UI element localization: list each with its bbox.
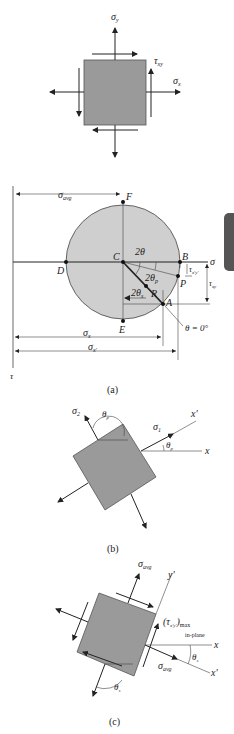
point-A [161, 302, 165, 306]
chapter-edge-tab [224, 213, 234, 271]
label-A: A [165, 297, 173, 308]
max-shear-panel: σavg y' (τx'y')max in-plane x θs σavg x'… [56, 558, 219, 728]
sigma-axis-label: σ [210, 256, 216, 267]
sigma-xp-dim-label: σx' [88, 341, 98, 353]
caption-c: (c) [109, 716, 120, 728]
caption-b: (b) [107, 543, 119, 555]
sigma-x-dim-label: σx [83, 327, 91, 339]
label-F: F [125, 191, 133, 202]
caption-a: (a) [107, 384, 118, 396]
label-R: R [150, 288, 157, 299]
principal-element-square [73, 424, 156, 510]
sigma-x-label: σx [173, 75, 181, 87]
label-C: C [113, 251, 120, 262]
sigma-2-label: σ2 [72, 405, 80, 417]
tau-max-label: (τx'y')max [163, 616, 190, 628]
sigma-2-arrow-opposite [131, 494, 146, 528]
sigma-avg-arrow-bottom [93, 664, 105, 696]
theta-p1-arc [163, 445, 164, 451]
sigma-2-arrow [85, 416, 98, 440]
point-C [121, 260, 125, 264]
theta-s1-arc [188, 645, 191, 664]
theta-zero-leader [165, 306, 183, 326]
x-label: x [204, 445, 210, 456]
stress-element-panel: σy τxy σx [50, 11, 181, 157]
tau-xy-label: τxy [154, 55, 163, 67]
sigma-y-label: σy [111, 11, 119, 23]
sigma-avg-label: σavg [58, 189, 72, 201]
sigma-avg-top-label: σavg [138, 558, 152, 570]
tau-xy-label: τxy [209, 279, 217, 289]
theta-p2-label: θp [102, 409, 109, 420]
principal-stress-panel: σ2 θp σ1 θp x' x (b) [58, 405, 210, 555]
tau-axis-label: τ [10, 371, 14, 381]
label-P: P [179, 278, 186, 289]
tau-xpyp-label: τx'y' [189, 265, 199, 275]
point-D [64, 260, 68, 264]
mohr-circle-panel: C D B F E A P R σavg σ τ 2θ 2θp 2θs τx'y… [10, 186, 217, 396]
two-theta-label: 2θ [135, 246, 145, 257]
point-E [121, 319, 125, 323]
label-E: E [118, 324, 125, 335]
stress-element-square [84, 60, 146, 125]
x-prime-axis [173, 421, 196, 434]
theta-zero-label: θ = 0° [185, 323, 208, 333]
in-plane-label: in-plane [185, 632, 205, 638]
label-B: B [182, 251, 188, 262]
sigma-1-label: σ1 [153, 421, 161, 433]
theta-s1-lower-label: θs [114, 682, 120, 693]
x-prime-label: x' [190, 408, 198, 419]
theta-s1-label: θs [192, 652, 198, 663]
label-D: D [56, 265, 65, 276]
x-label-c: x [213, 639, 219, 650]
theta-p1-label: θp [166, 440, 173, 451]
stress-transformation-figure: σy τxy σx [0, 0, 234, 734]
x-prime-label-c: x' [210, 667, 218, 678]
sigma-avg-right-label: σavg [158, 660, 172, 672]
point-F [121, 200, 125, 204]
point-R [144, 284, 148, 288]
y-prime-label: y' [167, 569, 175, 580]
sigma-1-arrow-opposite [58, 483, 88, 502]
